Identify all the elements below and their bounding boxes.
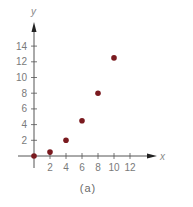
data-point	[79, 118, 85, 124]
x-tick-label: 10	[108, 162, 120, 173]
data-point	[31, 153, 37, 159]
y-tick-label: 4	[21, 119, 27, 130]
x-tick-label: 12	[124, 162, 136, 173]
data-points	[31, 55, 117, 159]
y-tick-label: 10	[16, 72, 28, 83]
figure-caption: (a)	[80, 182, 96, 194]
x-tick-label: 8	[95, 162, 101, 173]
data-point	[111, 55, 117, 61]
x-axis-label: x	[159, 151, 166, 162]
y-tick-label: 8	[21, 88, 27, 99]
y-axis-arrow-icon	[32, 22, 37, 32]
x-axis-arrow-icon	[147, 154, 157, 159]
x-tick-label: 4	[63, 162, 69, 173]
data-point	[63, 138, 69, 144]
x-tick-label: 2	[47, 162, 53, 173]
y-tick-label: 12	[16, 56, 28, 67]
y-tick-label: 14	[16, 41, 28, 52]
y-tick-label: 6	[21, 103, 27, 114]
y-axis-label: y	[30, 6, 37, 17]
y-tick-label: 2	[21, 135, 27, 146]
axes	[18, 22, 157, 168]
data-point	[47, 149, 53, 155]
data-point	[95, 90, 101, 96]
scatter-chart: 246810122468101214 x y (a)	[0, 0, 193, 207]
x-tick-label: 6	[79, 162, 85, 173]
